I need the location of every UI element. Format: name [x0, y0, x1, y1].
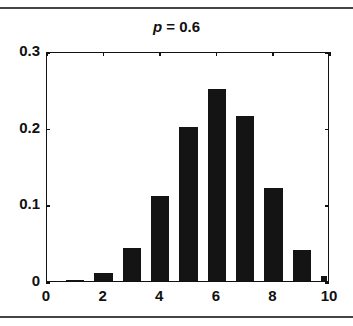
x-tick-label: 0: [42, 287, 50, 304]
x-tick-label: 6: [212, 287, 220, 304]
bar-5: [179, 127, 197, 281]
bar-2: [94, 273, 112, 281]
x-tick-mark: [329, 52, 331, 56]
title-variable: p: [153, 18, 162, 35]
bar-4: [151, 196, 169, 281]
bar-3: [123, 248, 141, 281]
bar-10: [321, 276, 327, 281]
title-value: = 0.6: [162, 18, 200, 35]
x-tick-mark: [46, 52, 48, 56]
y-tick-mark: [46, 129, 50, 131]
y-tick-label: 0: [32, 273, 40, 288]
x-tick-mark: [159, 52, 161, 56]
x-tick-label: 2: [98, 287, 106, 304]
bar-6: [208, 89, 226, 281]
x-tick-mark: [272, 52, 274, 56]
y-tick-mark: [325, 205, 329, 207]
x-tick-mark: [216, 52, 218, 56]
y-tick-mark: [46, 282, 50, 284]
x-tick-label: 8: [268, 287, 276, 304]
y-tick-mark: [325, 129, 329, 131]
top-rule: [0, 7, 353, 9]
bar-1: [66, 280, 84, 281]
plot-area: [46, 52, 329, 282]
x-tick-mark: [103, 52, 105, 56]
y-tick-mark: [46, 205, 50, 207]
y-tick-label: 0.1: [19, 196, 40, 211]
y-tick-label: 0.2: [19, 120, 40, 135]
bar-8: [264, 188, 282, 281]
bar-7: [236, 116, 254, 281]
bar-9: [293, 250, 311, 281]
y-tick-label: 0.3: [19, 43, 40, 58]
chart-title: p = 0.6: [0, 18, 353, 35]
bottom-rule: [0, 316, 353, 318]
x-tick-label: 4: [155, 287, 163, 304]
x-tick-label: 10: [321, 287, 338, 304]
y-tick-mark: [325, 282, 329, 284]
